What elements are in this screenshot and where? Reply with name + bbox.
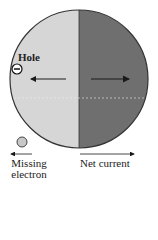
- missing-label-line2: electron: [7, 169, 51, 180]
- missing-electron-label: Missing electron: [7, 158, 51, 180]
- net-current-label: Net current: [80, 158, 130, 169]
- missing-electron-icon: [17, 137, 27, 147]
- hole-label: Hole: [18, 52, 40, 63]
